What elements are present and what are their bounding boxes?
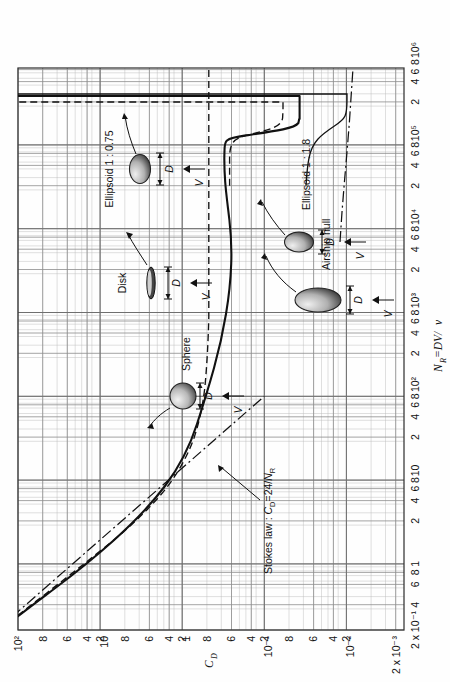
x-tick-28: 8	[409, 142, 421, 148]
x-tick-20: 2	[409, 266, 421, 272]
svg-text:D: D	[210, 653, 219, 660]
ellipsoid-075-D-label: D	[163, 165, 175, 173]
x-tick-6: 4	[409, 498, 421, 504]
sphere-name-label: Sphere	[180, 337, 192, 371]
x-tick-5: 2	[409, 518, 421, 524]
x-axis-tick-labels: 2 x 10⁻¹ 4 6 8 1 2 4 6 8 10 2 4 6 8 10² …	[409, 42, 421, 649]
y-axis-tick-labels: 10² 8 6 4 2 10 8 6 4 2 1 8 6 4 2 10⁻¹ 8	[12, 636, 402, 675]
x-tick-8: 8	[409, 477, 421, 483]
svg-text:N: N	[432, 363, 444, 373]
x-tick-33: 8	[409, 59, 421, 65]
x-tick-23: 8	[409, 226, 421, 232]
rotation-wrapper: 2 x 10⁻¹ 4 6 8 1 2 4 6 8 10 2 4 6 8 10² …	[0, 0, 450, 682]
x-tick-24: 10⁴	[409, 209, 421, 225]
y-tick-7: 6	[143, 636, 155, 642]
grid-lines	[18, 68, 404, 630]
x-tick-0: 2 x 10⁻¹	[409, 610, 421, 649]
x-tick-10: 2	[409, 434, 421, 440]
x-tick-1: 4	[409, 602, 421, 608]
y-tick-18: 4	[327, 636, 339, 642]
ellipsoid-18-velocity-arrow	[344, 238, 366, 246]
y-tick-16: 8	[283, 636, 295, 642]
x-tick-21: 4	[409, 246, 421, 252]
grid-decade-lines	[18, 68, 404, 630]
airship-V-label: V	[382, 310, 394, 318]
annotation-ellipsoid-075: D V Ellipsoid 1 : 0.75	[103, 113, 205, 208]
x-tick-11: 4	[409, 414, 421, 420]
x-tick-4: 1	[409, 561, 421, 567]
y-tick-15: 10⁻¹	[262, 636, 274, 658]
x-tick-30: 2	[409, 99, 421, 105]
annotation-airship-hull: D V Airship hull	[261, 219, 394, 318]
disk-D-label: D	[170, 279, 182, 287]
x-tick-27: 6	[409, 150, 421, 156]
x-tick-29: 10⁵	[409, 125, 421, 141]
x-tick-22: 6	[409, 234, 421, 240]
y-tick-2: 6	[61, 636, 73, 642]
ellipsoid-075-V-label: V	[193, 179, 205, 187]
sphere-velocity-arrow	[222, 392, 244, 400]
sphere-icon	[170, 383, 196, 409]
curve-stokes-law	[0, 396, 264, 630]
y-tick-12: 6	[225, 636, 237, 642]
svg-text:R: R	[439, 358, 448, 364]
ellipsoid-075-name-label: Ellipsoid 1 : 0.75	[103, 130, 115, 207]
ellipsoid-18-icon	[285, 232, 314, 252]
y-tick-6: 8	[119, 636, 131, 642]
y-tick-20: 10⁻²	[344, 636, 356, 658]
x-tick-12: 6	[409, 402, 421, 408]
x-tick-31: 4	[409, 79, 421, 85]
ellipsoid-18-name-label: Ellipsoid 1 : 1.8	[300, 139, 312, 210]
x-tick-15: 2	[409, 350, 421, 356]
x-tick-14: 10²	[409, 376, 421, 392]
curve-sphere	[1, 96, 300, 630]
y-tick-10: 1	[180, 636, 192, 642]
svg-text:ν: ν	[432, 319, 444, 325]
stokes-arrowhead	[218, 465, 224, 472]
ellipsoid-18-V-label: V	[354, 252, 366, 260]
y-tick-1: 8	[37, 636, 49, 642]
figure-page: 2 x 10⁻¹ 4 6 8 1 2 4 6 8 10 2 4 6 8 10² …	[0, 0, 450, 682]
x-tick-2: 6	[409, 581, 421, 587]
y-tick-11: 8	[201, 636, 213, 642]
y-tick-13: 4	[245, 636, 257, 642]
sphere-D-label: D	[202, 392, 214, 400]
y-tick-21: 2 x 10⁻³	[390, 636, 402, 675]
x-tick-13: 8	[409, 393, 421, 399]
airship-D-label: D	[352, 296, 364, 304]
y-tick-8: 4	[163, 636, 175, 642]
disk-name-label: Disk	[116, 272, 128, 293]
ellipsoid-075-velocity-arrow	[183, 165, 205, 173]
svg-text:C: C	[203, 660, 215, 668]
x-axis-title: C N R =DV/ ν	[432, 319, 448, 373]
x-tick-7: 6	[409, 486, 421, 492]
x-tick-32: 6	[409, 69, 421, 75]
drag-coefficient-chart: 2 x 10⁻¹ 4 6 8 1 2 4 6 8 10 2 4 6 8 10² …	[0, 0, 450, 682]
x-tick-19: 10³	[409, 293, 421, 309]
annotation-stokes-law: Stokes law : CD=24/NR	[218, 465, 277, 574]
x-tick-9: 10	[409, 465, 421, 477]
y-tick-0: 10²	[12, 636, 24, 652]
x-tick-3: 8	[409, 569, 421, 575]
x-tick-34: 10⁶	[409, 42, 421, 58]
x-tick-18: 8	[409, 309, 421, 315]
svg-text:=DV/: =DV/	[432, 330, 444, 358]
annotation-sphere: D V Sphere	[147, 337, 244, 429]
y-axis-title: C D	[203, 653, 219, 668]
x-tick-16: 4	[409, 330, 421, 336]
chart-svg: 2 x 10⁻¹ 4 6 8 1 2 4 6 8 10 2 4 6 8 10² …	[0, 0, 450, 682]
sphere-V-label: V	[232, 406, 244, 414]
airship-velocity-arrow	[372, 296, 394, 304]
x-tick-17: 6	[409, 318, 421, 324]
disk-V-label: V	[200, 293, 212, 301]
y-tick-17: 6	[307, 636, 319, 642]
ellipsoid-075-icon	[130, 155, 151, 184]
disk-icon-highlight	[147, 270, 151, 296]
sphere-arrowhead	[147, 423, 154, 429]
y-tick-5: 10	[98, 636, 110, 648]
y-tick-3: 4	[81, 636, 93, 642]
airship-hull-icon	[295, 288, 341, 312]
x-tick-26: 4	[409, 162, 421, 168]
x-tick-25: 2	[409, 183, 421, 189]
airship-name-label: Airship hull	[320, 219, 332, 270]
